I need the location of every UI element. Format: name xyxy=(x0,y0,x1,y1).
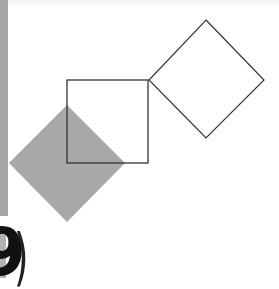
geometry-figure xyxy=(0,0,279,289)
figure-label: 9 ) xyxy=(0,226,30,289)
label-paren: ) xyxy=(14,226,29,288)
outline-diamond-shape xyxy=(149,20,264,138)
